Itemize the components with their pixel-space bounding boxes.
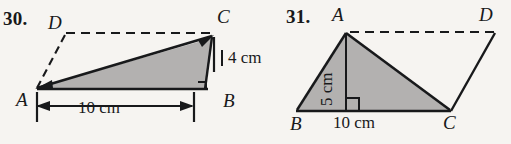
- vertex-label-a: A: [16, 89, 28, 111]
- vertex-label-b: B: [290, 113, 302, 135]
- problem-31-panel: 31. A D B C 5 cm 10 cm: [253, 0, 511, 144]
- base-dimension-label: 10 cm: [78, 98, 120, 118]
- vertex-label-a: A: [332, 4, 344, 26]
- vertex-label-d: D: [48, 12, 62, 34]
- vertex-label-b: B: [223, 90, 235, 112]
- problem-30-panel: 30.: [0, 0, 258, 144]
- vertex-label-c: C: [443, 112, 456, 134]
- vertex-label-c: C: [217, 6, 230, 28]
- worksheet-page: 30.: [0, 0, 511, 144]
- vertex-label-d: D: [479, 4, 493, 26]
- dimension-arrow-right: [180, 101, 194, 111]
- height-dimension-label: 5 cm: [317, 72, 337, 106]
- base-dimension-label: 10 cm: [333, 113, 375, 133]
- side-dc: [451, 33, 495, 111]
